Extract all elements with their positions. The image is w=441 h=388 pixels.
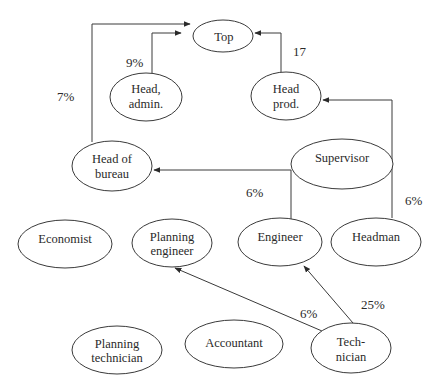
node-supervisor: Supervisor (291, 139, 393, 189)
svg-text:Economist: Economist (38, 232, 92, 246)
svg-text:Planning: Planning (95, 337, 140, 351)
edge-label-headman-prod: 6% (405, 193, 423, 208)
node-top: Top (193, 20, 253, 52)
node-head-admin: Head, admin. (110, 73, 182, 121)
node-accountant: Accountant (185, 320, 283, 368)
edge-label-tech-engineer: 25% (361, 297, 385, 312)
svg-text:Engineer: Engineer (257, 230, 303, 244)
svg-text:Planning: Planning (150, 230, 195, 244)
edge-head-admin-to-top (152, 33, 181, 73)
node-head-prod: Head prod. (251, 72, 321, 120)
svg-text:nician: nician (336, 350, 367, 364)
org-influence-diagram: 7% 9% 17 6% 6% 6% 25% Top Head, admin. H… (0, 0, 441, 388)
svg-text:Head,: Head, (131, 82, 161, 96)
svg-text:engineer: engineer (150, 244, 194, 258)
svg-text:admin.: admin. (129, 97, 163, 111)
svg-text:Supervisor: Supervisor (315, 151, 370, 165)
svg-text:Head of: Head of (92, 152, 133, 166)
edge-label-admin-top: 9% (126, 55, 144, 70)
svg-text:Accountant: Accountant (205, 336, 263, 350)
node-technician: Tech- nician (311, 323, 391, 373)
edge-label-supervisor-bureau: 6% (246, 185, 264, 200)
svg-text:Tech-: Tech- (337, 335, 365, 349)
node-planning-technician: Planning technician (72, 326, 162, 374)
edge-label-tech-planning-engineer: 6% (300, 306, 318, 321)
svg-text:technician: technician (91, 351, 143, 365)
svg-text:Top: Top (214, 30, 233, 44)
svg-text:bureau: bureau (95, 167, 130, 181)
edge-label-prod-top: 17 (293, 44, 307, 59)
svg-text:Head: Head (273, 82, 300, 96)
edge-head-prod-to-top (255, 33, 281, 72)
node-economist: Economist (18, 220, 112, 268)
node-headman: Headman (331, 218, 421, 266)
edge-label-bureau-top: 7% (57, 89, 75, 104)
svg-text:Headman: Headman (352, 230, 401, 244)
node-planning-engineer: Planning engineer (132, 219, 212, 267)
node-engineer: Engineer (238, 218, 322, 266)
svg-text:prod.: prod. (273, 97, 299, 111)
node-head-of-bureau: Head of bureau (72, 141, 152, 191)
